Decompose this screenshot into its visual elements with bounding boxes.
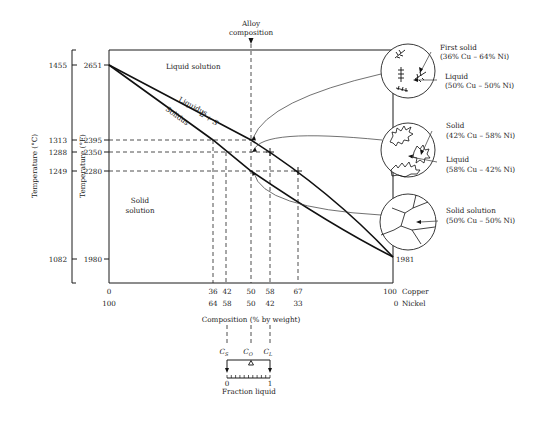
x-axis-title: Composition (% by weight) xyxy=(202,315,301,324)
micrograph2-label1-sub: (42% Cu – 58% Ni) xyxy=(446,131,515,140)
micrograph3-label1: Solid solution xyxy=(446,206,496,215)
cu-tick-100: 100 xyxy=(383,287,397,296)
fraction-liquid-label: Fraction liquid xyxy=(222,387,276,396)
celsius-tick-1249: 1249 xyxy=(49,167,68,176)
celsius-tick-1313: 1313 xyxy=(49,136,68,145)
ni-tick-58: 58 xyxy=(222,299,232,308)
alloy-label-line1: Alloy xyxy=(241,19,261,28)
ni-tick-0: 0 xyxy=(394,299,399,308)
fahrenheit-tick-2651: 2651 xyxy=(84,61,102,70)
plot-frame: 2651 2395 2350 2280 1980 Temperature (°F… xyxy=(78,50,393,283)
cu-tick-36: 36 xyxy=(208,287,218,296)
micrograph-solid-solution: Solid solution (50% Cu – 50% Ni) xyxy=(380,194,515,250)
arrow-down-icon xyxy=(225,368,229,373)
cu-tick-0: 0 xyxy=(107,287,112,296)
cu-tick-42: 42 xyxy=(222,287,231,296)
fahrenheit-axis-title: Temperature (°F) xyxy=(78,134,87,198)
fulcrum-icon xyxy=(249,361,254,366)
liquid-region-label: Liquid solution xyxy=(166,62,221,71)
micrograph2-label2: Liquid xyxy=(446,155,470,164)
micrograph1-label2-sub: (50% Cu – 50% Ni) xyxy=(445,81,514,90)
micrograph1-label2: Liquid xyxy=(445,72,469,81)
copper-label: Copper xyxy=(402,287,429,296)
solid-region-label-line1: Solid xyxy=(131,196,150,205)
arrow-down-icon xyxy=(249,38,254,44)
ni-tick-42: 42 xyxy=(265,299,274,308)
micrograph-connectors xyxy=(251,74,382,215)
ni-tick-50: 50 xyxy=(246,299,256,308)
x-axis-labels: 0 36 42 50 58 67 100 Copper 100 64 58 50… xyxy=(102,287,429,324)
micrograph2-label1: Solid xyxy=(446,121,465,130)
cu-tick-67: 67 xyxy=(293,287,303,296)
fahrenheit-tick-1980: 1980 xyxy=(84,255,103,264)
ni-tick-64: 64 xyxy=(208,299,218,308)
lever-cl-label: CL xyxy=(264,347,274,357)
phase-diagram-figure: 1455 1313 1288 1249 1082 Temperature (°C… xyxy=(0,0,541,423)
celsius-axis-title: Temperature (°C) xyxy=(30,134,39,198)
micrograph2-label2-sub: (58% Cu – 42% Ni) xyxy=(446,165,515,174)
micrograph1-label1-sub: (36% Cu – 64% Ni) xyxy=(440,52,509,61)
right-endpoint-label: 1981 xyxy=(396,255,414,264)
micrograph-first-solid: First solid (36% Cu – 64% Ni) Liquid (50… xyxy=(381,43,514,98)
celsius-tick-1288: 1288 xyxy=(49,148,68,157)
celsius-tick-1455: 1455 xyxy=(49,61,68,70)
alloy-label-line2: composition xyxy=(229,28,274,37)
celsius-axis: 1455 1313 1288 1249 1082 Temperature (°C… xyxy=(30,50,77,283)
micrograph1-label1: First solid xyxy=(440,43,477,52)
cu-tick-50: 50 xyxy=(246,287,256,296)
two-phase-region-label: L + S xyxy=(197,109,220,128)
micrograph-two-phase: Solid (42% Cu – 58% Ni) Liquid (58% Cu –… xyxy=(381,121,515,177)
cu-tick-58: 58 xyxy=(265,287,275,296)
ni-tick-33: 33 xyxy=(293,299,303,308)
micrograph3-label1-sub: (50% Cu – 50% Ni) xyxy=(446,216,515,225)
lever-co-label: CO xyxy=(243,347,253,357)
lever-cs-label: CS xyxy=(220,347,230,357)
celsius-tick-1082: 1082 xyxy=(49,255,67,264)
lever-rule-diagram: CS CO CL 0 1 Fraction liquid xyxy=(220,325,277,396)
ni-tick-100: 100 xyxy=(102,299,116,308)
solid-region-label-line2: solution xyxy=(125,206,154,215)
arrow-down-icon xyxy=(268,368,272,373)
nickel-label: Nickel xyxy=(402,299,426,308)
